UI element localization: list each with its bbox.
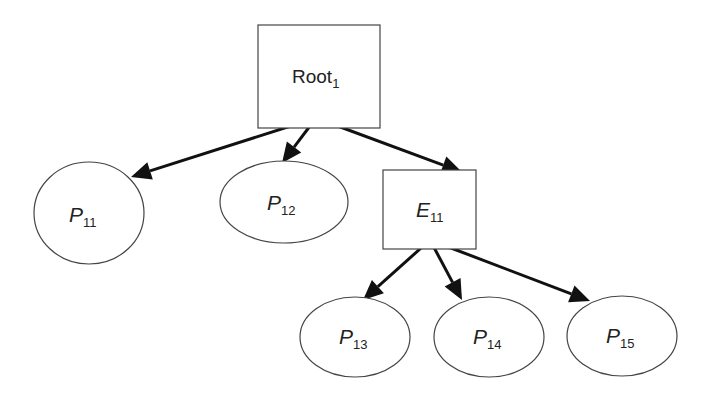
node-p11: P11 <box>34 162 144 264</box>
arrowhead-p12 <box>282 142 301 163</box>
node-root: Root1 <box>258 25 380 128</box>
arrowhead-p11 <box>131 162 153 179</box>
node-p13: P13 <box>300 297 410 377</box>
arrowhead-p15 <box>568 285 590 302</box>
node-p15: P15 <box>567 296 677 376</box>
node-e11: E11 <box>383 170 476 249</box>
tree-diagram: Root1 P11 P12 E11 P13 P14 P15 <box>0 0 712 401</box>
node-p14: P14 <box>434 297 544 377</box>
node-p12: P12 <box>220 161 348 243</box>
